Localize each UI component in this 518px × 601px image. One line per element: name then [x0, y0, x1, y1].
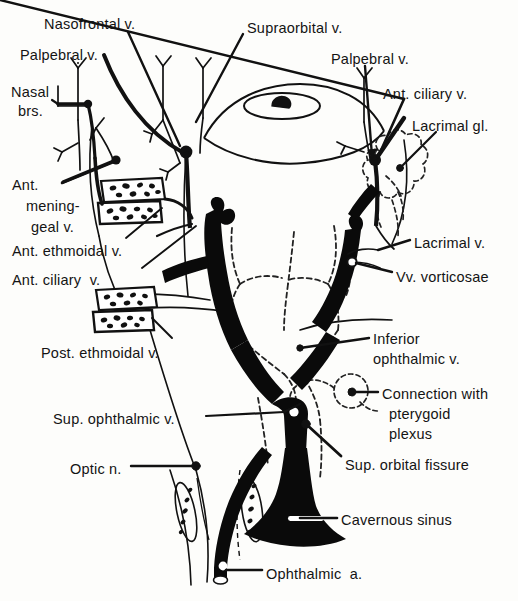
label-palpebral-v-right: Palpebral v.	[331, 51, 409, 69]
label-sup-ophthalmic-v: Sup. ophthalmic v.	[53, 411, 175, 429]
label-inferior-oph-line1: Inferior	[373, 331, 420, 349]
label-ant-mening-line2: mening-	[26, 198, 80, 216]
label-supraorbital-v: Supraorbital v.	[247, 20, 342, 38]
label-ant-ciliary-v-right: Ant. ciliary v.	[383, 86, 467, 104]
label-ant-ciliary-v-left: Ant. ciliary v.	[12, 272, 100, 290]
label-inferior-oph-line2: ophthalmic v.	[373, 351, 460, 369]
label-nasal-brs-line2: brs.	[18, 103, 43, 121]
label-optic-n: Optic n.	[70, 461, 122, 479]
pupil	[272, 96, 291, 108]
label-nasal-brs-line1: Nasal	[11, 84, 49, 102]
label-connection-line3: plexus	[389, 426, 432, 444]
label-connection-line1: Connection with	[382, 386, 488, 404]
inferior-ophthalmic-vein	[290, 184, 380, 390]
label-post-ethmoidal-v: Post. ethmoidal v.	[41, 345, 159, 363]
label-lacrimal-v: Lacrimal v.	[414, 235, 485, 253]
label-sup-orbital-fissure: Sup. orbital fissure	[345, 457, 469, 475]
label-ant-ethmoidal-v: Ant. ethmoidal v.	[12, 243, 122, 261]
ethmoid-air-cells-lower	[93, 287, 157, 332]
label-cavernous-sinus: Cavernous sinus	[341, 512, 452, 530]
label-ophthalmic-a: Ophthalmic a.	[266, 566, 362, 584]
eye-globe-outline	[204, 84, 384, 164]
ethmoid-air-cells-upper	[98, 178, 165, 224]
lateral-angle-junction	[369, 118, 404, 226]
label-palpebral-v-left: Palpebral v.	[20, 47, 98, 65]
label-vv-vorticosae: Vv. vorticosae	[396, 269, 489, 287]
label-connection-line2: pterygoid	[389, 406, 450, 424]
anatomical-figure: Nasofrontal v. Palpebral v. Nasal brs. S…	[0, 0, 518, 601]
label-ant-mening-line1: Ant.	[12, 177, 39, 195]
lacrimal-gland-lobules	[363, 130, 428, 236]
medial-angle-junction	[180, 146, 193, 228]
label-lacrimal-gl: Lacrimal gl.	[412, 118, 489, 136]
label-ant-mening-line3: geal v.	[31, 219, 74, 237]
label-nasofrontal-v: Nasofrontal v.	[44, 16, 135, 34]
